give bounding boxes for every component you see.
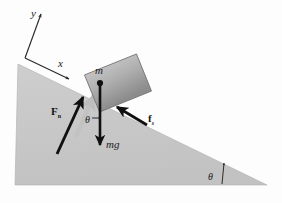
y-axis-line <box>25 14 41 58</box>
angle-theta-incline-label: θ <box>208 171 213 182</box>
y-axis-label: y <box>30 7 36 19</box>
block-mass-label: m <box>95 64 103 76</box>
physics-diagram-root: y x m Fn mg fs θ θ <box>0 0 282 203</box>
static-friction-label: fs <box>148 112 155 126</box>
x-axis-label: x <box>57 57 63 69</box>
figure-svg: y x m Fn mg fs θ θ <box>0 0 282 203</box>
angle-theta-block-label: θ <box>85 114 90 125</box>
center-of-mass-dot <box>97 80 103 86</box>
weight-force-label: mg <box>106 138 120 150</box>
